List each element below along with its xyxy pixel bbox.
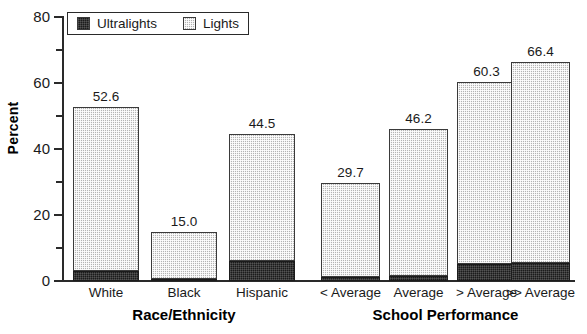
bar-segment-lights [229, 134, 295, 260]
y-tick-major [54, 16, 62, 18]
y-tick-minor [56, 115, 62, 117]
black-solid-swatch-icon [77, 17, 90, 30]
bar-value-label: 15.0 [149, 215, 219, 229]
bar-value-label: 46.2 [384, 112, 454, 126]
bar-segment-ultralights [73, 271, 139, 281]
y-axis-line [62, 16, 64, 282]
bar-segment-lights [457, 82, 516, 264]
y-tick-minor [56, 181, 62, 183]
bar-segment-lights [73, 107, 139, 271]
legend-label-lights: Lights [203, 17, 239, 31]
y-tick-major [54, 82, 62, 84]
y-tick-major [54, 214, 62, 216]
bar-average [511, 62, 570, 281]
bar-segment-ultralights [511, 263, 570, 281]
y-axis-title: Percent [5, 68, 21, 188]
y-tick-minor [56, 247, 62, 249]
bar-segment-lights [321, 183, 380, 277]
bar-value-label: 29.7 [316, 166, 386, 180]
bar-segment-lights [151, 232, 217, 280]
y-tick-major [54, 280, 62, 282]
category-label: Hispanic [216, 286, 308, 300]
y-tick-major [54, 148, 62, 150]
bar-white [73, 107, 139, 281]
y-tick-label: 0 [0, 273, 50, 288]
y-tick-label: 80 [0, 9, 50, 24]
group-title-race-ethnicity: Race/Ethnicity [74, 306, 294, 323]
y-tick-label: 20 [0, 207, 50, 222]
group-title-school-performance: School Performance [336, 306, 556, 323]
legend-item-ultralights: Ultralights [77, 17, 157, 31]
chart-legend: Ultralights Lights [67, 12, 249, 35]
bar-value-label: 66.4 [506, 45, 576, 59]
bar-segment-ultralights [229, 261, 295, 281]
chart-figure: 020406080 Percent 52.615.044.529.746.260… [0, 0, 587, 334]
y-tick-minor [56, 49, 62, 51]
bar-average [457, 82, 516, 281]
bar-black [151, 232, 217, 282]
category-label: >> Average [495, 286, 587, 300]
legend-label-ultralights: Ultralights [97, 17, 157, 31]
bar-segment-lights [389, 129, 448, 276]
bar-value-label: 52.6 [71, 90, 141, 104]
bar-segment-ultralights [321, 277, 380, 281]
gray-hatched-swatch-icon [183, 17, 196, 30]
bar-segment-ultralights [457, 264, 516, 281]
bar-value-label: 44.5 [227, 117, 297, 131]
bar-average [321, 183, 380, 281]
legend-item-lights: Lights [183, 17, 239, 31]
bar-segment-ultralights [151, 279, 217, 281]
bar-average [389, 129, 448, 281]
bar-segment-ultralights [389, 276, 448, 281]
bar-hispanic [229, 134, 295, 281]
bar-segment-lights [511, 62, 570, 263]
